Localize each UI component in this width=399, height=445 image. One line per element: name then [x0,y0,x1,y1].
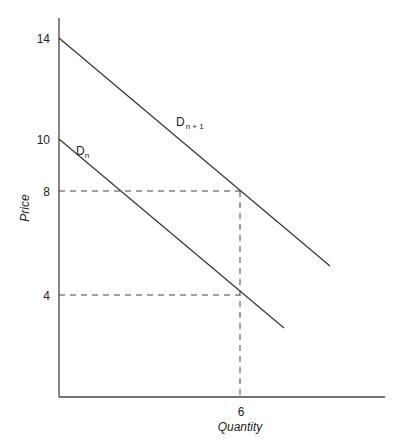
x-tick-6: 6 [238,405,245,419]
label-dn1-sub: n + 1 [186,122,205,131]
label-dn-main: D [76,144,85,158]
y-axis-title: Price [18,194,32,222]
demand-curve-dn1 [59,38,330,266]
y-tick-10: 10 [37,133,51,147]
demand-curve-dn [59,139,284,328]
label-dn-sub: n [85,151,89,160]
y-tick-8: 8 [43,185,50,199]
label-dn1: Dn + 1 [176,115,204,131]
demand-shift-chart: 14 10 8 4 6 Quantity Price Dn Dn + 1 [0,0,399,445]
label-dn1-main: D [176,115,185,129]
x-axis-title: Quantity [218,420,264,434]
y-tick-14: 14 [37,32,51,46]
y-tick-4: 4 [43,289,50,303]
label-dn: Dn [76,144,89,160]
